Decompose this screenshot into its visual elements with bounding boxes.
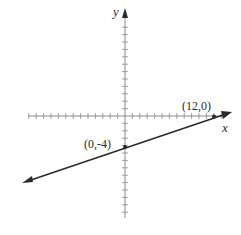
coordinate-plane	[0, 0, 241, 235]
line-arrow-right-icon	[221, 111, 232, 119]
y-axis-arrow-icon	[122, 8, 128, 18]
y-axis-label: y	[113, 5, 119, 18]
graph-line	[28, 114, 226, 181]
point-label-0-neg4: (0,-4)	[84, 138, 111, 150]
point-0-neg4	[123, 145, 127, 149]
x-axis-label: x	[222, 121, 228, 134]
point-label-12-0: (12,0)	[182, 100, 211, 112]
line-arrow-left-icon	[22, 176, 33, 183]
point-12-0	[212, 115, 216, 119]
